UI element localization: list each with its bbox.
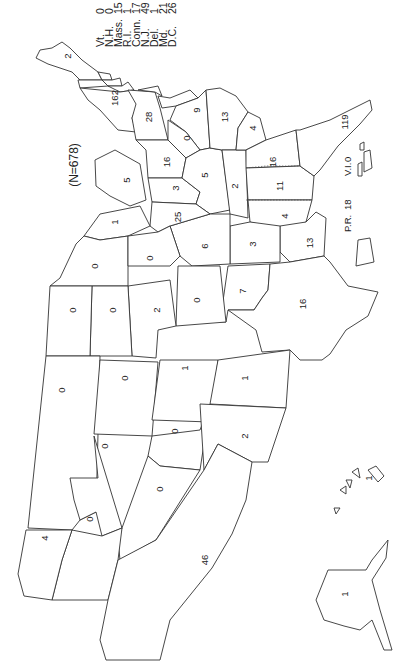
value-texas: 16 [297,299,308,310]
value-hawaii: 1 [363,475,374,480]
territory-labels: P.R. 18 V.I. 0 [342,157,353,232]
value-south-dakota: 0 [107,307,118,312]
value-missouri: 6 [199,243,210,248]
value-washington: 4 [39,535,50,540]
legend-label: D.C. [166,26,178,47]
value-nebraska: 2 [151,307,162,312]
virgin-islands [358,142,372,176]
value-new-york: 162 [109,90,120,106]
value-kentucky: 5 [199,172,210,177]
alaska [316,540,392,650]
legend-small-states: Vt. N.H. Mass. R.I. Conn. N.J. Del. Md. … [94,2,178,47]
value-virginia: 9 [191,107,202,112]
value-nevada: 0 [154,486,165,491]
pr-value: 18 [342,199,353,210]
state-wyoming [94,360,158,436]
value-iowa: 0 [144,255,155,260]
value-oklahoma: 7 [237,288,248,293]
state-south-dakota [90,286,132,356]
vi-value: 0 [342,157,353,162]
value-colorado: 1 [179,365,190,370]
value-arizona: 2 [239,433,250,438]
value-pennsylvania: 28 [143,112,154,123]
value-ohio: 16 [161,157,172,168]
vi-label: V.I. [342,163,353,176]
value-utah: 0 [169,428,180,433]
value-north-carolina: 13 [219,112,230,123]
value-indiana: 3 [170,185,181,190]
value-west-virginia: 0 [181,135,192,140]
value-south-carolina: 4 [247,125,258,130]
value-louisiana: 13 [304,238,315,249]
value-wisconsin: 1 [109,219,120,224]
state-kansas [176,266,226,326]
value-arkansas: 3 [247,241,258,246]
hawaii [334,466,384,514]
value-idaho: 0 [99,443,110,448]
us-state-map: (N=678) Vt. N.H. Mass. R.I. Conn. N.J. D… [0,0,406,666]
map-title: (N=678) [67,143,81,187]
state-outlines [18,42,378,660]
value-alabama: 11 [274,181,285,191]
state-maine [36,42,102,80]
value-wyoming: 0 [119,375,130,380]
state-new-mexico [210,350,290,408]
value-michigan: 5 [121,177,132,182]
value-montana: 0 [56,387,67,392]
value-illinois: 25 [172,212,183,223]
value-new-mexico: 1 [239,375,250,380]
value-oregon: 0 [84,516,95,521]
value-california: 46 [199,555,210,566]
value-mississippi: 4 [279,213,290,218]
puerto-rico [356,238,374,266]
state-minnesota [50,236,128,286]
value-north-dakota: 0 [67,307,78,312]
value-maine: 2 [62,53,73,58]
pr-label: P.R. [342,215,353,232]
legend-value: 26 [166,2,178,14]
value-georgia: 16 [267,157,278,168]
state-nebraska [128,280,176,358]
value-alaska: 1 [339,591,350,596]
value-tennessee: 2 [229,183,240,188]
value-minnesota: 0 [89,263,100,268]
value-florida: 119 [339,114,350,129]
state-north-dakota [46,286,92,356]
value-kansas: 0 [191,297,202,302]
